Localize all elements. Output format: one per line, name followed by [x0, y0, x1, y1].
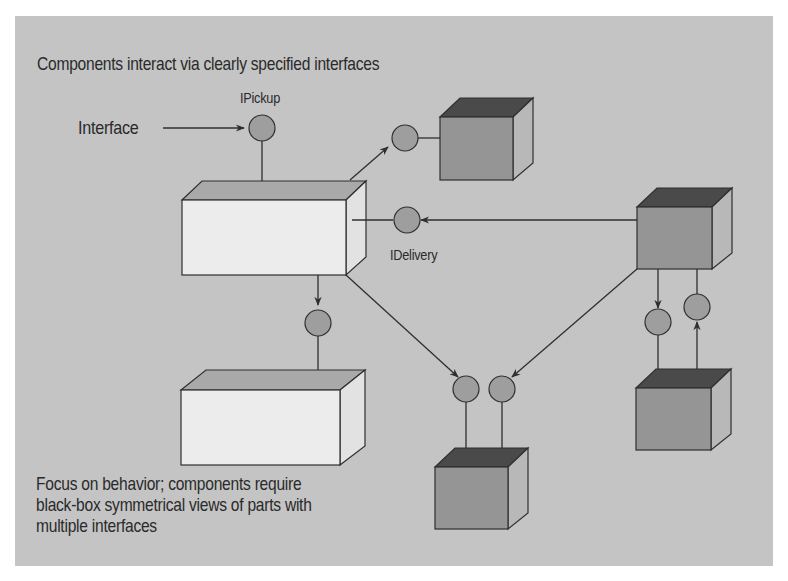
arrow-to-top-interface — [350, 147, 388, 180]
ipickup-interface — [249, 115, 275, 186]
top-right-interface — [392, 125, 440, 151]
right-lower-interface-left — [645, 309, 671, 371]
diagram-title: Components interact via clearly specifie… — [37, 53, 379, 75]
lower-component-box — [181, 370, 365, 465]
bottom-center-interface-left — [453, 376, 479, 450]
bottom-center-interface-right — [489, 376, 515, 450]
footer-line-2: black-box symmetrical views of parts wit… — [36, 494, 312, 515]
bottom-right-cube — [636, 369, 731, 450]
footer-line-1: Focus on behavior; components require — [36, 473, 312, 494]
ipickup-label: IPickup — [240, 89, 280, 106]
main-component-box — [182, 181, 366, 275]
lower-interface — [305, 310, 331, 375]
arrow-right-to-bottom-interface — [512, 269, 637, 377]
footer-line-3: multiple interfaces — [36, 515, 312, 536]
top-right-cube — [440, 98, 533, 180]
bottom-center-cube — [435, 448, 528, 529]
idelivery-label: IDelivery — [390, 246, 437, 263]
right-cube — [637, 188, 732, 269]
right-lower-interface-right — [684, 269, 710, 320]
interface-label: Interface — [78, 117, 139, 139]
footer-caption: Focus on behavior; components require bl… — [36, 473, 312, 536]
idelivery-interface — [352, 207, 637, 233]
arrow-main-to-bottom-interface — [346, 275, 458, 377]
